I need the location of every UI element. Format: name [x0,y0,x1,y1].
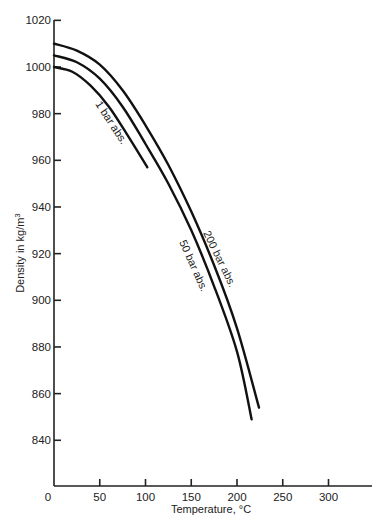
x-tick-label: 150 [182,491,201,503]
x-tick-label: 200 [227,491,246,503]
x-tick-label: 50 [93,491,106,503]
y-axis-title: Density in kg/m3 [13,213,26,293]
y-ticks: 84086088090092094096098010001020 [25,14,61,446]
curves [54,44,259,420]
y-axis-title-main: Density in kg/m [14,218,26,293]
x-tick-label: 300 [319,491,338,503]
curve-1bar [54,67,147,167]
curve-label-1bar: 1 bar abs. [93,99,130,147]
y-axis-title-sup: 3 [13,213,22,218]
y-tick-label: 1020 [25,14,51,26]
y-tick-label: 900 [32,294,51,306]
x-ticks: 050100150200250300 [45,479,338,503]
y-tick-label: 880 [32,341,51,353]
y-tick-label: 860 [32,388,51,400]
y-tick-label: 940 [32,201,51,213]
curve-200bar [54,44,259,408]
density-temperature-chart: 84086088090092094096098010001020 0501001… [0,0,386,528]
y-tick-label: 1000 [25,61,51,73]
x-axis-title: Temperature, °C [171,503,251,515]
y-tick-label: 960 [32,154,51,166]
x-tick-label: 250 [273,491,292,503]
y-tick-label: 840 [32,434,51,446]
curve-50bar [54,55,252,419]
y-tick-label: 980 [32,108,51,120]
y-tick-label: 920 [32,248,51,260]
x-tick-label: 100 [136,491,155,503]
x-tick-label: 0 [45,491,51,503]
